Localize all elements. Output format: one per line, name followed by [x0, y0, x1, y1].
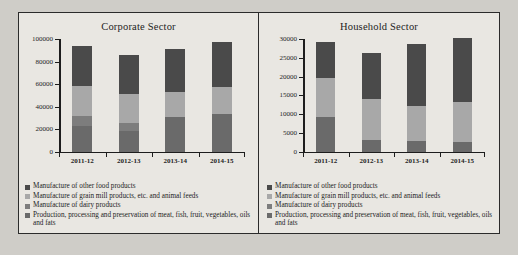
- x-tick: [59, 153, 60, 157]
- x-tick-label: 2011-12: [314, 157, 337, 165]
- legend-label: Production, processing and preservation …: [33, 211, 257, 228]
- bar-segment: [119, 131, 139, 151]
- plot-area-household: 0500010000150002000025000300002011-12201…: [303, 39, 485, 153]
- legend-item[interactable]: Manufacture of other food products: [267, 182, 499, 191]
- panel-corporate-sector: Corporate Sector 02000040000600008000010…: [19, 13, 259, 233]
- x-tick: [106, 153, 107, 157]
- legend-item[interactable]: Manufacture of grain mill products, etc.…: [25, 192, 257, 201]
- y-tick-label: 25000: [280, 54, 298, 62]
- bar-segment: [407, 141, 426, 151]
- y-tick-label: 20000: [280, 73, 298, 81]
- y-tick-label: 0: [294, 148, 298, 156]
- bar-segment: [362, 53, 381, 99]
- legend-item[interactable]: Manufacture of dairy products: [25, 201, 257, 210]
- y-tick: [299, 114, 303, 115]
- y-tick-label: 0: [50, 148, 54, 156]
- x-tick: [303, 153, 304, 157]
- legend-swatch-icon: [267, 213, 272, 218]
- bar-segment: [212, 87, 232, 114]
- bar-segment: [165, 49, 185, 92]
- legend-swatch-icon: [267, 185, 272, 190]
- plot-area-corporate: 0200004000060000800001000002011-122012-1…: [59, 39, 245, 153]
- y-tick-label: 20000: [36, 125, 54, 133]
- y-tick-label: 30000: [280, 35, 298, 43]
- y-tick-label: 80000: [36, 58, 54, 66]
- bar-2013-14: [407, 44, 426, 152]
- legend-label: Manufacture of other food products: [275, 182, 378, 191]
- bar-segment: [72, 86, 92, 116]
- y-axis-household: [303, 39, 305, 153]
- legend-swatch-icon: [267, 194, 272, 199]
- y-tick-label: 100000: [32, 35, 53, 43]
- bar-2012-13: [362, 53, 381, 151]
- bar-2011-12: [72, 46, 92, 151]
- bar-segment: [407, 106, 426, 141]
- bar-2014-15: [453, 38, 472, 152]
- x-tick-label: 2014-15: [451, 157, 474, 165]
- bar-2013-14: [165, 49, 185, 151]
- chart-title-household: Household Sector: [259, 21, 499, 32]
- legend-item[interactable]: Production, processing and preservation …: [25, 211, 257, 228]
- bar-segment: [165, 92, 185, 116]
- chart-frame: Corporate Sector 02000040000600008000010…: [18, 12, 500, 234]
- legend-label: Manufacture of grain mill products, etc.…: [33, 192, 198, 201]
- bar-2014-15: [212, 42, 232, 152]
- legend-swatch-icon: [25, 204, 30, 209]
- bar-segment: [453, 102, 472, 142]
- legend-swatch-icon: [25, 185, 30, 190]
- bar-segment: [119, 55, 139, 94]
- x-tick-label: 2014-15: [210, 157, 233, 165]
- bar-segment: [407, 44, 426, 106]
- y-tick: [299, 39, 303, 40]
- bar-segment: [72, 46, 92, 86]
- x-tick: [484, 153, 485, 157]
- x-tick: [394, 153, 395, 157]
- x-tick-label: 2011-12: [71, 157, 94, 165]
- x-tick-label: 2012-13: [117, 157, 140, 165]
- legend-corporate: Manufacture of other food productsManufa…: [25, 182, 257, 229]
- chart-title-corporate: Corporate Sector: [19, 21, 258, 32]
- y-tick-label: 60000: [36, 80, 54, 88]
- y-tick-label: 15000: [280, 91, 298, 99]
- bar-segment: [119, 123, 139, 131]
- legend-item[interactable]: Manufacture of grain mill products, etc.…: [267, 192, 499, 201]
- bar-segment: [212, 114, 232, 151]
- bar-segment: [72, 116, 92, 126]
- y-tick: [55, 39, 59, 40]
- y-tick: [55, 84, 59, 85]
- y-tick-label: 10000: [280, 110, 298, 118]
- x-tick-label: 2013-14: [164, 157, 187, 165]
- bar-segment: [119, 94, 139, 123]
- figure-canvas: Corporate Sector 02000040000600008000010…: [0, 0, 518, 255]
- bar-segment: [453, 38, 472, 103]
- legend-swatch-icon: [25, 194, 30, 199]
- y-tick: [55, 129, 59, 130]
- bar-segment: [362, 99, 381, 140]
- bar-segment: [316, 78, 335, 117]
- x-tick: [199, 153, 200, 157]
- y-axis-corporate: [59, 39, 61, 153]
- legend-item[interactable]: Manufacture of other food products: [25, 182, 257, 191]
- legend-label: Manufacture of other food products: [33, 182, 136, 191]
- bar-segment: [453, 142, 472, 151]
- x-tick: [440, 153, 441, 157]
- legend-label: Production, processing and preservation …: [275, 211, 499, 228]
- legend-item[interactable]: Manufacture of dairy products: [267, 201, 499, 210]
- y-tick: [299, 77, 303, 78]
- bar-segment: [72, 126, 92, 151]
- bar-2012-13: [119, 55, 139, 151]
- x-tick-label: 2013-14: [405, 157, 428, 165]
- y-tick: [299, 58, 303, 59]
- bar-segment: [165, 117, 185, 151]
- x-tick: [244, 153, 245, 157]
- y-tick: [299, 133, 303, 134]
- y-tick: [55, 107, 59, 108]
- x-tick: [349, 153, 350, 157]
- legend-item[interactable]: Production, processing and preservation …: [267, 211, 499, 228]
- y-tick-label: 5000: [283, 129, 297, 137]
- legend-swatch-icon: [267, 204, 272, 209]
- bar-segment: [362, 140, 381, 151]
- panel-household-sector: Household Sector 05000100001500020000250…: [259, 13, 499, 233]
- y-tick: [55, 62, 59, 63]
- legend-label: Manufacture of dairy products: [275, 201, 363, 210]
